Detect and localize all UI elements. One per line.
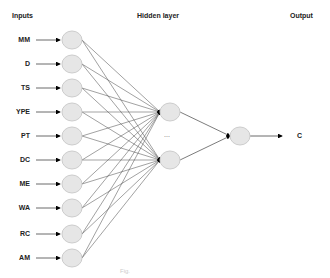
input-node xyxy=(62,127,82,145)
input-label: MM xyxy=(2,36,30,43)
input-label: AM xyxy=(2,254,30,261)
input-node xyxy=(62,225,82,243)
input-node xyxy=(62,79,82,97)
input-label: RC xyxy=(2,230,30,237)
figure-caption: Fig. xyxy=(120,268,130,274)
input-node xyxy=(62,249,82,267)
input-label: TS xyxy=(2,84,30,91)
input-node xyxy=(62,199,82,217)
input-label: YPE xyxy=(2,108,30,115)
input-node xyxy=(62,103,82,121)
input-node xyxy=(62,31,82,49)
output-label: C xyxy=(297,132,302,139)
input-node xyxy=(62,175,82,193)
input-node xyxy=(62,151,82,169)
hidden-ellipsis: ... xyxy=(164,131,170,138)
input-label: DC xyxy=(2,156,30,163)
output-node xyxy=(230,127,250,145)
input-label: WA xyxy=(2,204,30,211)
input-label: D xyxy=(2,60,30,67)
input-node xyxy=(62,55,82,73)
network-diagram xyxy=(0,0,330,278)
input-label: ME xyxy=(2,180,30,187)
hidden-node xyxy=(160,103,180,121)
hidden-node xyxy=(160,151,180,169)
input-label: PT xyxy=(2,132,30,139)
